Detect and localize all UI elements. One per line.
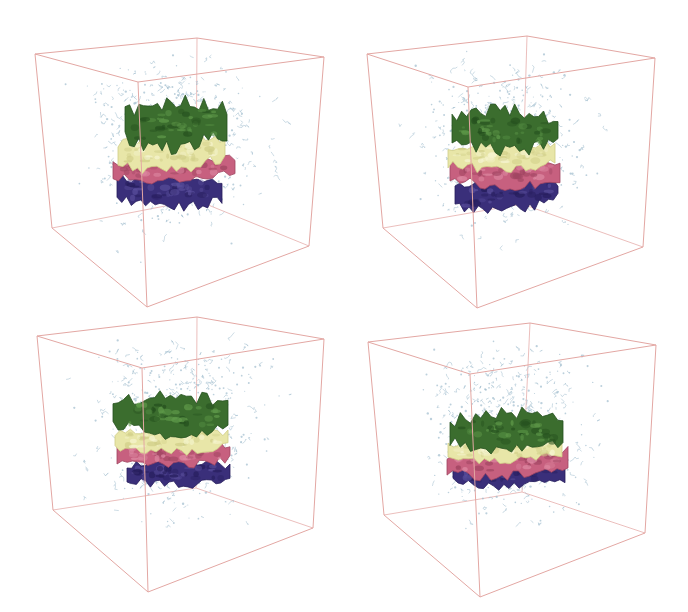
solvent-atom <box>592 382 593 383</box>
solvent-atom <box>442 433 443 434</box>
solvent-molecule <box>452 107 456 108</box>
solvent-molecule <box>229 359 231 363</box>
solvent-atom <box>116 202 118 204</box>
solvent-molecule <box>109 391 111 394</box>
solvent-molecule <box>249 119 250 122</box>
solvent-atom <box>132 393 134 395</box>
solvent-molecule <box>461 60 465 65</box>
surface-texture <box>187 148 194 155</box>
solvent-atom <box>167 521 168 522</box>
solvent-molecule <box>190 56 194 58</box>
solvent-molecule <box>470 365 473 368</box>
solvent-molecule <box>518 372 522 375</box>
solvent-molecule <box>166 219 169 222</box>
surface-texture <box>540 128 551 133</box>
surface-texture <box>211 111 216 114</box>
solvent-molecule <box>134 96 137 100</box>
solvent-atom <box>123 498 124 499</box>
solvent-atom <box>563 372 565 374</box>
solvent-molecule <box>573 181 577 184</box>
solvent-atom <box>556 403 558 405</box>
solvent-molecule <box>204 360 207 362</box>
solvent-atom <box>211 400 212 401</box>
solvent-molecule <box>491 381 493 383</box>
surface-texture <box>196 170 202 174</box>
surface-texture <box>523 465 532 469</box>
surface-texture <box>194 437 200 443</box>
solvent-molecule <box>450 488 453 490</box>
solvent-atom <box>460 374 462 376</box>
solvent-molecule <box>460 235 464 239</box>
solvent-atom <box>211 213 212 214</box>
surface-texture <box>488 200 492 203</box>
solvent-atom <box>103 105 105 107</box>
surface-texture <box>213 470 223 473</box>
solvent-atom <box>465 528 466 529</box>
surface-texture <box>157 466 163 472</box>
solvent-molecule <box>225 501 227 502</box>
solvent-molecule <box>170 519 174 522</box>
solvent-atom <box>146 392 148 394</box>
surface-texture <box>486 469 494 471</box>
solvent-molecule <box>213 203 214 206</box>
solvent-atom <box>143 92 145 94</box>
solvent-molecule <box>500 246 503 251</box>
solvent-atom <box>565 145 567 147</box>
surface-texture <box>530 157 540 164</box>
solvent-atom <box>230 397 232 399</box>
surface-texture <box>133 469 143 476</box>
surface-texture <box>159 127 168 130</box>
solvent-atom <box>122 469 124 471</box>
solvent-atom <box>179 384 181 386</box>
solvent-atom <box>512 75 513 76</box>
solvent-molecule <box>259 362 263 366</box>
surface-texture <box>481 421 484 427</box>
solvent-atom <box>521 90 523 92</box>
solvent-molecule <box>517 215 519 216</box>
surface-texture <box>209 465 217 469</box>
solvent-molecule <box>428 456 431 459</box>
solvent-molecule <box>231 416 236 419</box>
surface-texture <box>480 160 484 162</box>
solvent-molecule <box>194 386 195 388</box>
solvent-molecule <box>101 180 103 183</box>
solvent-molecule <box>563 404 566 408</box>
solvent-molecule <box>503 213 507 217</box>
surface-texture <box>172 410 180 414</box>
surface-texture <box>212 439 217 442</box>
solvent-atom <box>264 438 266 440</box>
layer-stack <box>113 391 230 489</box>
solvent-molecule <box>440 387 442 394</box>
solvent-molecule <box>118 88 121 91</box>
solvent-molecule <box>556 142 562 148</box>
solvent-atom <box>538 368 540 370</box>
solvent-atom <box>108 156 110 158</box>
solvent-atom <box>240 185 242 187</box>
solvent-molecule <box>125 383 128 386</box>
solvent-molecule <box>486 398 488 400</box>
solvent-atom <box>73 407 75 409</box>
solvent-atom <box>547 99 548 100</box>
solvent-atom <box>463 104 465 106</box>
solvent-atom <box>243 204 244 205</box>
surface-texture <box>509 192 520 194</box>
box-edge <box>384 515 480 597</box>
solvent-molecule <box>153 67 155 68</box>
solvent-molecule <box>463 500 467 501</box>
solvent-molecule <box>589 448 594 451</box>
solvent-atom <box>542 96 544 98</box>
solvent-molecule <box>83 460 85 463</box>
solvent-atom <box>211 389 212 390</box>
solvent-atom <box>134 70 136 72</box>
solvent-molecule <box>271 152 274 156</box>
solvent-atom <box>243 434 245 436</box>
surface-texture <box>491 118 496 124</box>
solvent-molecule <box>472 80 478 83</box>
surface-texture <box>486 125 493 127</box>
solvent-atom <box>209 363 210 364</box>
surface-texture <box>183 131 192 137</box>
layer-stack <box>447 407 568 490</box>
surface-texture <box>474 431 482 437</box>
solvent-atom <box>225 398 226 399</box>
solvent-molecule <box>233 414 238 416</box>
